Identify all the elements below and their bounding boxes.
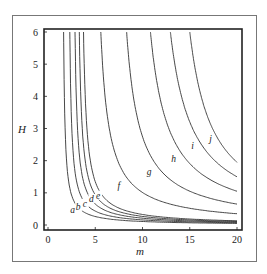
y-tick-label: 3 bbox=[33, 123, 38, 134]
x-axis-label: m bbox=[136, 245, 144, 257]
y-tick-label: 5 bbox=[33, 59, 38, 70]
curve-label-d: d bbox=[89, 194, 94, 204]
curve-label-e: e bbox=[96, 191, 100, 201]
curve-label-i: i bbox=[191, 141, 194, 151]
y-tick-label: 0 bbox=[33, 220, 38, 231]
curve-label-g: g bbox=[147, 167, 152, 177]
x-tick-label: 20 bbox=[232, 234, 242, 245]
curve-d bbox=[79, 32, 237, 222]
curve-label-b: b bbox=[76, 202, 81, 212]
x-tick-label: 15 bbox=[185, 234, 195, 245]
curve-g bbox=[127, 32, 237, 204]
x-tick-label: 0 bbox=[46, 234, 51, 245]
y-axis-label: H bbox=[17, 123, 27, 135]
curve-h bbox=[151, 32, 238, 191]
y-tick-label: 1 bbox=[33, 187, 38, 198]
y-tick-label: 4 bbox=[33, 91, 38, 102]
contour-chart: 051015200123456mHabcdefghij bbox=[0, 0, 267, 274]
x-tick-label: 5 bbox=[93, 234, 98, 245]
curve-label-h: h bbox=[171, 154, 176, 164]
y-tick-label: 6 bbox=[33, 27, 38, 38]
x-tick-label: 10 bbox=[138, 234, 148, 245]
curve-e bbox=[84, 32, 238, 221]
curve-label-a: a bbox=[70, 205, 75, 215]
y-tick-label: 2 bbox=[33, 155, 38, 166]
